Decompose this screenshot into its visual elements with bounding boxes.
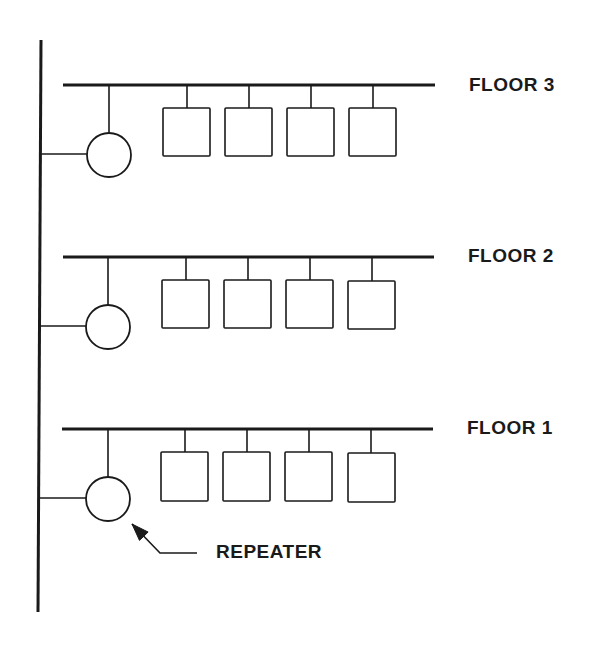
floor-2-label: FLOOR 2 — [468, 246, 554, 265]
repeater-circle-icon — [86, 305, 130, 349]
repeater-circle-icon — [87, 133, 131, 177]
workstation-node-box — [223, 452, 270, 501]
repeater-circle-icon — [86, 477, 130, 521]
floors — [39, 85, 435, 521]
floor-2-segment — [39, 257, 434, 349]
workstation-node-box — [285, 452, 332, 501]
repeater-callout — [132, 524, 197, 553]
workstation-node-box — [225, 108, 272, 156]
workstation-node-box — [348, 453, 395, 502]
workstation-node-box — [348, 281, 395, 329]
floor-1-label: FLOOR 1 — [467, 418, 553, 437]
workstation-node-box — [349, 108, 396, 156]
workstation-node-box — [161, 452, 208, 501]
floor-3-label: FLOOR 3 — [469, 75, 555, 94]
workstation-node-box — [224, 280, 271, 328]
repeater-label: REPEATER — [216, 542, 322, 561]
workstation-node-box — [162, 280, 209, 328]
floor-3-segment — [40, 85, 435, 177]
workstation-node-box — [163, 108, 210, 156]
workstation-node-box — [286, 280, 333, 328]
workstation-node-box — [287, 108, 334, 156]
floor-1-segment — [39, 429, 433, 521]
